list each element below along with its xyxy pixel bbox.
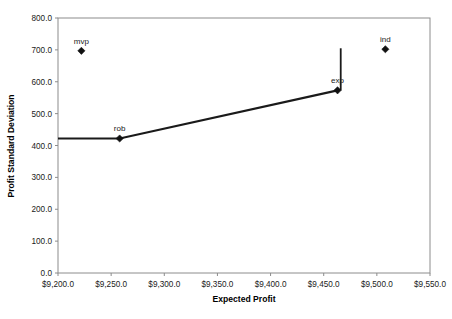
series-line-frontier xyxy=(58,90,338,138)
x-axis-ticks: $9,200.0$9,250.0$9,300.0$9,350.0$9,400.0… xyxy=(42,273,446,289)
x-tick-label: $9,500.0 xyxy=(361,280,393,289)
data-point-marker-ind[interactable] xyxy=(382,46,389,53)
data-point-label-rob: rob xyxy=(114,124,126,133)
y-tick-label: 600.0 xyxy=(32,78,53,87)
plot-area-border xyxy=(58,18,430,273)
data-point-marker-mvp[interactable] xyxy=(78,47,85,54)
x-axis-title: Expected Profit xyxy=(212,294,275,304)
y-tick-label: 800.0 xyxy=(32,14,53,23)
x-tick-label: $9,250.0 xyxy=(95,280,127,289)
plot-frame xyxy=(58,18,430,273)
y-axis-ticks: 0.0100.0200.0300.0400.0500.0600.0700.080… xyxy=(32,14,59,278)
y-tick-label: 700.0 xyxy=(32,46,53,55)
y-tick-label: 300.0 xyxy=(32,173,53,182)
y-tick-label: 500.0 xyxy=(32,110,53,119)
data-point-label-mvp: mvp xyxy=(74,37,90,46)
y-axis-title: Profit Standard Deviation xyxy=(6,94,16,197)
data-point-group: mvprobexpind xyxy=(74,35,391,142)
data-point-label-ind: ind xyxy=(380,35,391,44)
y-tick-label: 100.0 xyxy=(32,237,53,246)
x-tick-label: $9,400.0 xyxy=(255,280,287,289)
y-tick-label: 200.0 xyxy=(32,205,53,214)
x-tick-label: $9,550.0 xyxy=(414,280,446,289)
x-tick-label: $9,450.0 xyxy=(308,280,340,289)
y-tick-label: 400.0 xyxy=(32,142,53,151)
x-tick-label: $9,200.0 xyxy=(42,280,74,289)
data-point-marker-rob[interactable] xyxy=(116,135,123,142)
x-tick-label: $9,300.0 xyxy=(148,280,180,289)
y-tick-label: 0.0 xyxy=(41,269,53,278)
chart-container: 0.0100.0200.0300.0400.0500.0600.0700.080… xyxy=(0,0,452,319)
series-line-group xyxy=(58,90,338,138)
scatter-plot-svg: 0.0100.0200.0300.0400.0500.0600.0700.080… xyxy=(0,0,452,319)
data-point-label-exp: exp xyxy=(331,76,344,85)
x-tick-label: $9,350.0 xyxy=(201,280,233,289)
